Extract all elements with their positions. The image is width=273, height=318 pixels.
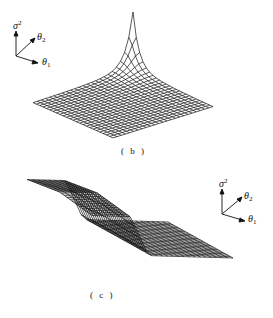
- panel-caption-b: ( b ): [121, 147, 146, 156]
- axis-label-theta1-c: θ1: [248, 214, 256, 226]
- axis-label-sigma-b: σ2: [13, 20, 21, 31]
- axis-label-theta2-c: θ2: [244, 191, 252, 203]
- surface-plot-b: [0, 0, 273, 318]
- axis-label-theta2-b: θ2: [37, 32, 45, 44]
- axis-label-theta1-b: θ1: [42, 57, 50, 69]
- axis-triad-b: [14, 31, 38, 64]
- axis-label-sigma-c: σ2: [219, 178, 227, 189]
- axis-triad-c: [220, 189, 245, 222]
- panel-caption-c: ( c ): [90, 291, 115, 300]
